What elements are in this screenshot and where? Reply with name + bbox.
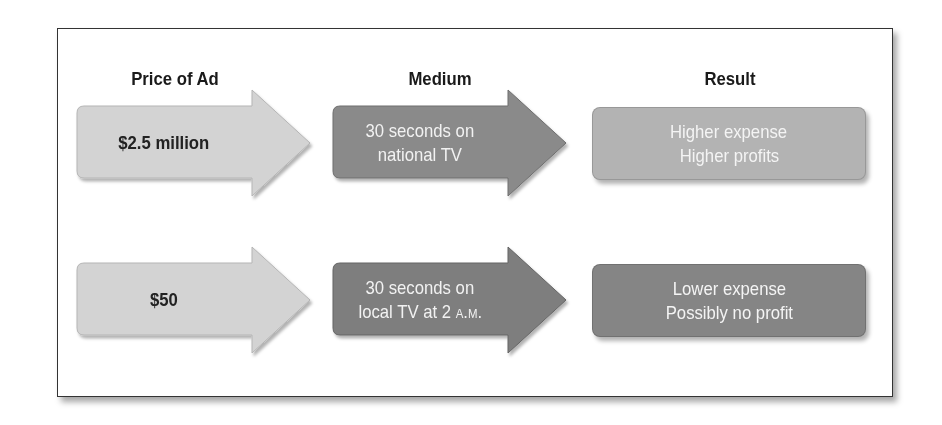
medium-line1-row1: 30 seconds on <box>366 119 475 143</box>
header-medium: Medium <box>383 68 497 90</box>
price-arrow-row2: $50 <box>76 245 316 355</box>
medium-arrow-row2: 30 seconds on local TV at 2 a.m. <box>332 245 572 355</box>
result-line1-row1: Higher expense <box>670 120 787 144</box>
result-line2-row2: Possibly no profit <box>665 301 792 325</box>
header-price-of-ad: Price of Ad <box>109 68 241 90</box>
medium-line2-row2: local TV at 2 a.m. <box>358 300 482 324</box>
price-value-row2: $50 <box>150 288 178 312</box>
medium-line1-row2: 30 seconds on <box>366 276 475 300</box>
result-line1-row2: Lower expense <box>672 277 785 301</box>
result-line2-row1: Higher profits <box>679 144 778 168</box>
result-box-row2: Lower expense Possibly no profit <box>592 264 866 337</box>
price-value-row1: $2.5 million <box>118 131 209 155</box>
price-arrow-row1: $2.5 million <box>76 88 316 198</box>
header-result: Result <box>668 68 791 90</box>
medium-arrow-row1: 30 seconds on national TV <box>332 88 572 198</box>
result-box-row1: Higher expense Higher profits <box>592 107 866 180</box>
medium-line2-row1: national TV <box>378 143 462 167</box>
